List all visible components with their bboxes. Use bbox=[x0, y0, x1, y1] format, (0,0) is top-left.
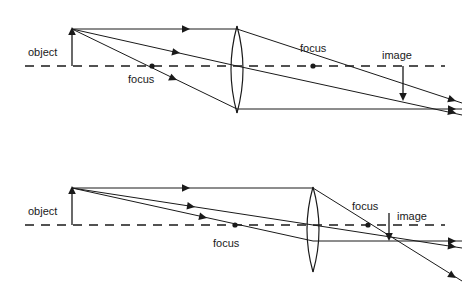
converging-lens-top bbox=[231, 26, 243, 113]
object-arrowhead-top bbox=[68, 27, 76, 35]
ray-arrowheads-top bbox=[168, 25, 457, 117]
focus-label-left-top: focus bbox=[128, 73, 155, 85]
object-arrowhead-bottom bbox=[68, 186, 76, 194]
object-label-bottom: object bbox=[28, 205, 57, 217]
arrowhead-focal-in-top bbox=[168, 74, 178, 84]
arrowhead-parallel-in-bottom bbox=[182, 184, 190, 192]
image-label-top: image bbox=[382, 49, 412, 61]
center-ray-incoming-top bbox=[72, 29, 237, 66]
image-arrowhead-top bbox=[399, 93, 407, 101]
arrowhead-parallel-in-top bbox=[182, 25, 190, 33]
lens-left-surface-bottom bbox=[307, 187, 313, 272]
center-ray-outgoing-top bbox=[237, 66, 462, 115]
object-arrow-top bbox=[68, 27, 76, 66]
focus-label-right-top: focus bbox=[300, 42, 327, 54]
arrowhead-parallel-out-top bbox=[447, 95, 457, 105]
object-label-top: object bbox=[28, 46, 57, 58]
converging-lens-bottom bbox=[307, 187, 319, 272]
focus-dot-left-bottom bbox=[232, 222, 237, 227]
top-diagram: object focus focus image bbox=[25, 25, 462, 117]
arrowhead-center-in-top bbox=[171, 48, 180, 57]
bottom-diagram: object focus focus image bbox=[25, 184, 462, 281]
focus-dot-right-bottom bbox=[365, 222, 370, 227]
focal-ray-incoming-bottom bbox=[72, 188, 313, 241]
lens-right-surface-top bbox=[237, 26, 243, 113]
ray-arrowheads-bottom bbox=[182, 184, 458, 281]
lens-right-surface-bottom bbox=[313, 187, 319, 272]
ray-group-bottom bbox=[72, 188, 462, 281]
lens-ray-diagram-canvas: object focus focus image bbox=[0, 0, 471, 297]
focal-ray-incoming-top bbox=[72, 29, 237, 109]
focus-dot-right-top bbox=[310, 63, 315, 68]
arrowhead-parallel-out-bottom bbox=[447, 271, 458, 282]
arrowhead-focal-out-bottom bbox=[448, 237, 456, 245]
focus-label-right-bottom: focus bbox=[352, 200, 379, 212]
lens-left-surface-top bbox=[231, 26, 237, 113]
focus-label-left-bottom: focus bbox=[213, 237, 240, 249]
image-arrow-top bbox=[399, 66, 407, 101]
optics-figure: object focus focus image bbox=[0, 0, 471, 297]
image-label-bottom: image bbox=[397, 210, 427, 222]
object-arrow-bottom bbox=[68, 186, 76, 225]
focus-dot-left-top bbox=[149, 63, 154, 68]
